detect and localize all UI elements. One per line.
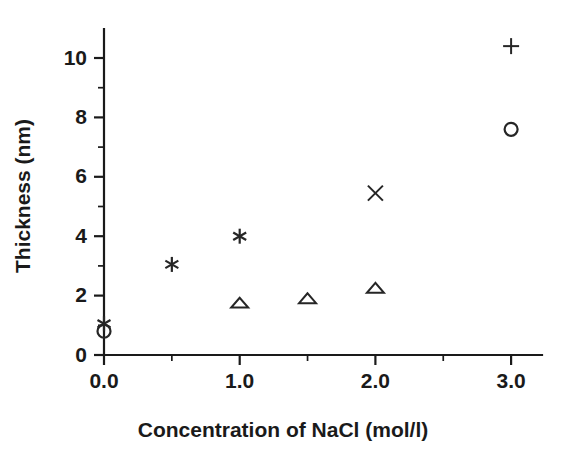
ticks-layer xyxy=(94,58,511,365)
data-point-plus xyxy=(503,38,519,54)
data-point-circle xyxy=(505,123,518,136)
x-axis-title: Concentration of NaCl (mol/l) xyxy=(138,418,429,441)
data-point-triangle xyxy=(231,298,248,308)
data-point-cross xyxy=(368,186,383,201)
x-tick-label: 2.0 xyxy=(361,369,390,392)
series-cross xyxy=(368,186,383,201)
y-axis-title: Thickness (nm) xyxy=(11,119,34,273)
data-point-triangle xyxy=(367,283,384,293)
y-tick-label: 4 xyxy=(75,224,87,247)
y-tick-label: 2 xyxy=(75,283,87,306)
scatter-plot: 02468100.01.02.03.0 Concentration of NaC… xyxy=(0,0,566,449)
series-triangle xyxy=(231,283,384,308)
tick-labels-layer: 02468100.01.02.03.0 xyxy=(64,46,526,393)
data-point-star xyxy=(165,257,178,272)
y-tick-label: 6 xyxy=(75,164,87,187)
x-tick-label: 3.0 xyxy=(496,369,525,392)
x-tick-label: 0.0 xyxy=(89,369,118,392)
axes-layer xyxy=(104,29,542,355)
series-circle xyxy=(98,123,518,338)
chart-root: 02468100.01.02.03.0 Concentration of NaC… xyxy=(0,0,566,449)
x-tick-label: 1.0 xyxy=(225,369,254,392)
data-point-triangle xyxy=(299,293,316,303)
series-plus xyxy=(503,38,519,54)
y-tick-label: 8 xyxy=(75,105,87,128)
y-tick-label: 0 xyxy=(75,343,87,366)
data-point-star xyxy=(233,229,246,244)
series-star xyxy=(98,229,247,332)
y-tick-label: 10 xyxy=(64,46,87,69)
data-markers-layer xyxy=(98,38,520,338)
